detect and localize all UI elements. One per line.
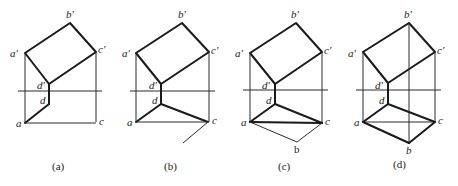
label-a: a — [16, 117, 22, 129]
panel-b: a′ b′ c′ d′ d a c (b) — [122, 8, 219, 173]
construction-line-c — [183, 122, 208, 143]
panel-a: a′ b′ c′ d′ d a c (a) — [10, 8, 106, 173]
label-d: d — [40, 94, 46, 106]
label-c-prime: c′ — [437, 44, 445, 56]
label-a-prime: a′ — [10, 47, 19, 59]
label-b-prime: b′ — [404, 8, 413, 20]
label-a: a — [354, 116, 360, 128]
label-c: c — [325, 115, 330, 127]
edge-d-a — [136, 104, 161, 122]
edge-a-c — [250, 122, 322, 123]
label-d-prime: d′ — [149, 79, 158, 91]
caption-d: (d) — [393, 158, 406, 171]
front-view-rectangle — [363, 23, 435, 83]
edge-b-c — [297, 123, 322, 142]
edge-d-a — [363, 104, 388, 122]
label-b-prime: b′ — [291, 8, 300, 20]
edge-d-a — [25, 104, 49, 123]
front-view-rectangle — [250, 23, 322, 84]
label-d: d — [266, 94, 272, 106]
label-c: c — [438, 114, 443, 126]
label-a: a — [127, 116, 133, 128]
panel-c: a′ b′ c′ d′ d a c b (c) — [235, 8, 332, 173]
label-c: c — [212, 114, 217, 126]
edge-a-b — [250, 122, 297, 142]
label-c: c — [99, 115, 104, 127]
projection-diagram: a′ b′ c′ d′ d a c (a) a′ b′ c′ d′ d a c … — [0, 0, 458, 186]
edge-d-c — [388, 104, 435, 122]
label-a: a — [241, 116, 247, 128]
label-b: b — [294, 143, 300, 155]
label-c-prime: c′ — [211, 44, 219, 56]
label-c-prime: c′ — [324, 44, 332, 56]
label-b-prime: b′ — [178, 8, 187, 20]
caption-c: (c) — [278, 160, 291, 173]
label-a-prime: a′ — [122, 47, 131, 59]
front-view-rectangle — [136, 23, 209, 84]
edge-d-c — [275, 104, 322, 123]
front-view-rectangle — [25, 23, 96, 84]
label-b-prime: b′ — [66, 8, 75, 20]
caption-b: (b) — [164, 160, 177, 173]
edge-d-c — [161, 104, 208, 122]
edge-a-b — [363, 122, 409, 143]
caption-a: (a) — [52, 160, 65, 173]
label-a-prime: a′ — [348, 47, 357, 59]
label-d-prime: d′ — [37, 79, 46, 91]
label-d-prime: d′ — [262, 79, 271, 91]
label-b: b — [406, 144, 412, 156]
edge-d-a — [250, 104, 275, 122]
label-c-prime: c′ — [98, 43, 106, 55]
edge-b-c — [409, 122, 435, 143]
panel-d: a′ b′ c′ d′ d a c b (d) — [348, 8, 445, 171]
label-d: d — [379, 94, 385, 106]
label-d: d — [152, 94, 158, 106]
label-d-prime: d′ — [375, 79, 384, 91]
label-a-prime: a′ — [235, 47, 244, 59]
